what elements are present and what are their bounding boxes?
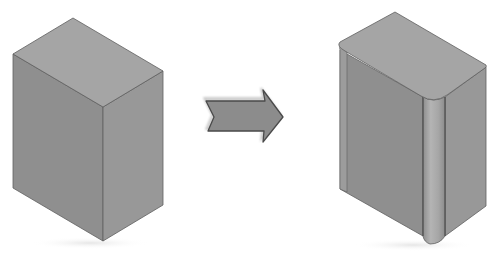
box-after-shadow xyxy=(353,239,473,251)
box-before-shadow xyxy=(30,237,150,249)
diagram-canvas xyxy=(0,0,497,255)
box-after-fillet-face xyxy=(423,97,445,244)
box-before xyxy=(13,18,163,249)
arrow-icon xyxy=(204,88,283,142)
box-after-left-edge-fillet xyxy=(340,44,348,192)
box-after xyxy=(339,12,487,251)
